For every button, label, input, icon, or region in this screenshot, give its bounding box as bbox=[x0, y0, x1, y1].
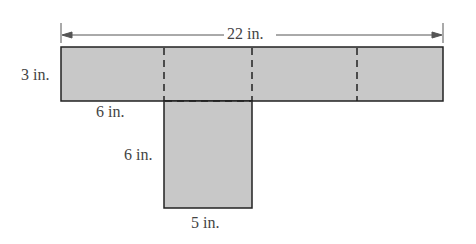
label-tab-width: 5 in. bbox=[191, 215, 219, 231]
label-top-height: 3 in. bbox=[21, 67, 49, 83]
label-top-segment: 6 in. bbox=[96, 104, 124, 120]
label-total-width: 22 in. bbox=[227, 26, 263, 42]
arrow-left-icon bbox=[62, 32, 72, 38]
label-tab-height: 6 in. bbox=[124, 147, 152, 163]
arrow-right-icon bbox=[432, 32, 442, 38]
bottom-tab bbox=[164, 101, 252, 208]
